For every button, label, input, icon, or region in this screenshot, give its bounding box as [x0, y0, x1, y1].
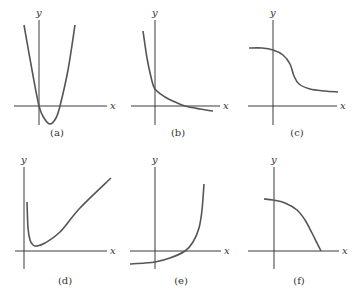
panel-label: (f) — [293, 275, 305, 286]
curve-f — [264, 199, 321, 251]
curve-b — [143, 31, 213, 111]
panel-label: (b) — [171, 127, 185, 138]
x-axis-label: x — [110, 100, 116, 111]
x-axis-label: x — [223, 100, 229, 111]
panel-f: xy(f) — [248, 154, 348, 286]
panel-label: (e) — [174, 275, 188, 286]
curve-e — [130, 184, 204, 264]
y-axis-label: y — [269, 7, 276, 18]
curve-c — [249, 48, 338, 92]
panel-label: (a) — [50, 127, 64, 138]
y-axis-label: y — [151, 7, 158, 18]
curve-d — [27, 178, 111, 246]
y-axis-label: y — [20, 154, 27, 165]
x-axis-label: x — [342, 245, 348, 256]
x-axis-label: x — [224, 245, 230, 256]
y-axis-label: y — [270, 154, 277, 165]
x-axis-label: x — [110, 245, 116, 256]
y-axis-label: y — [151, 154, 158, 165]
curve-a — [24, 25, 75, 124]
panel-b: xy(b) — [131, 7, 229, 138]
panel-a: xy(a) — [14, 7, 116, 138]
panel-d: xy(d) — [15, 154, 116, 286]
panel-e: xy(e) — [130, 154, 230, 286]
panel-c: xy(c) — [248, 7, 346, 138]
panel-label: (c) — [290, 127, 304, 138]
panel-label: (d) — [58, 275, 72, 286]
x-axis-label: x — [340, 100, 346, 111]
six-graph-figure: xy(a)xy(b)xy(c)xy(d)xy(e)xy(f) — [0, 0, 356, 292]
y-axis-label: y — [35, 7, 42, 18]
